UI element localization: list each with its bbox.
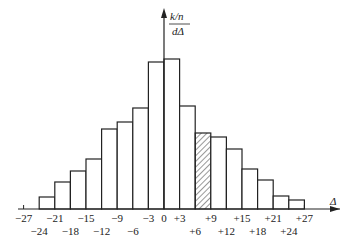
histogram-bar (211, 137, 227, 209)
histogram-bar (133, 108, 149, 209)
x-axis-label: Δ (329, 195, 336, 207)
histogram-bar (258, 180, 274, 209)
x-tick-label: +21 (265, 212, 282, 224)
histogram-bars (39, 59, 304, 209)
histogram-bar (180, 106, 196, 209)
histogram-bar (226, 149, 242, 209)
histogram-bar (242, 169, 258, 209)
histogram-chart: k/ndΔΔ−27−21−15−9−30+3+9+15+21+27−24−18−… (0, 0, 356, 245)
y-axis-label-denominator: dΔ (172, 25, 184, 37)
x-tick-label: −3 (143, 212, 155, 224)
histogram-bar (55, 182, 71, 209)
x-tick-label: +12 (218, 225, 235, 237)
histogram-bar (148, 62, 164, 209)
x-tick-label: +15 (233, 212, 251, 224)
histogram-bar (39, 197, 55, 209)
x-tick-label: 0 (161, 212, 167, 224)
x-tick-label: −12 (93, 225, 110, 237)
x-tick-label: −6 (127, 225, 139, 237)
x-tick-label: +18 (249, 225, 267, 237)
x-tick-label: −24 (31, 225, 49, 237)
histogram-bar (164, 59, 180, 209)
x-tick-label: −21 (46, 212, 63, 224)
histogram-bar (117, 122, 133, 209)
x-tick-label: +27 (296, 212, 314, 224)
x-tick-label: −18 (62, 225, 80, 237)
y-axis-arrow-icon (161, 8, 167, 18)
x-tick-label: +9 (205, 212, 217, 224)
x-tick-label: +24 (280, 225, 298, 237)
histogram-bar (102, 129, 118, 209)
x-tick-label: +6 (189, 225, 201, 237)
histogram-bar (86, 159, 102, 209)
histogram-bar (289, 200, 305, 209)
histogram-bar (70, 171, 86, 209)
x-tick-label: +3 (174, 212, 186, 224)
histogram-bar (273, 196, 289, 209)
x-tick-label: −15 (77, 212, 95, 224)
x-tick-label: −27 (15, 212, 33, 224)
x-tick-label: −9 (111, 212, 123, 224)
y-axis-label-numerator: k/n (170, 10, 184, 22)
histogram-bar-highlighted (195, 133, 211, 209)
